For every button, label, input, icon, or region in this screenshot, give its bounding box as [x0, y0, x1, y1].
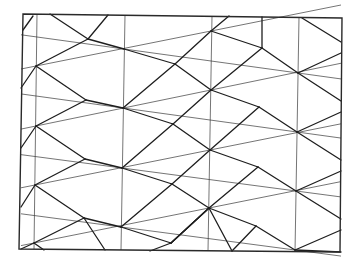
triangle-edge	[123, 64, 175, 108]
triangle-edge	[295, 230, 341, 250]
triangle-edge	[302, 18, 341, 42]
triangle-edge	[21, 126, 36, 148]
triangle-edge	[209, 208, 232, 251]
shallow-diagonal-line	[21, 124, 341, 188]
vertical-guide-line	[208, 16, 212, 251]
triangle-edge	[35, 185, 84, 218]
triangle-edge	[209, 167, 258, 208]
triangle-edge	[172, 184, 209, 208]
triangle-edge	[34, 218, 84, 243]
triangle-edge	[23, 16, 33, 30]
triangle-edge	[211, 48, 262, 90]
lattice-diagram	[0, 0, 358, 266]
vertical-guide-line	[295, 17, 299, 252]
triangle-edge	[121, 227, 171, 243]
triangle-edge	[36, 100, 86, 126]
triangle-edge	[210, 150, 258, 167]
vertical-guide-line	[121, 15, 125, 250]
triangle-edge	[50, 14, 88, 39]
triangle-edge	[296, 191, 341, 219]
triangle-edge	[88, 39, 124, 49]
triangle-edge	[209, 208, 256, 226]
triangle-edge	[210, 107, 259, 150]
triangle-edge	[123, 108, 173, 124]
triangle-edge	[262, 48, 298, 73]
thin-lines-layer	[21, 5, 341, 256]
triangle-edge	[173, 124, 210, 150]
triangle-edge	[211, 31, 262, 48]
triangle-edge	[36, 39, 88, 66]
triangle-edge	[21, 243, 34, 249]
triangle-edge	[175, 31, 211, 64]
triangle-edge	[122, 168, 172, 184]
triangle-edge	[211, 90, 259, 107]
triangle-edge	[211, 16, 229, 31]
triangle-edge	[296, 171, 341, 191]
shallow-diagonal-line	[21, 182, 341, 246]
vertical-guide-line	[34, 14, 37, 249]
triangle-edge	[175, 64, 211, 90]
triangle-edge	[258, 167, 296, 191]
triangle-edge	[35, 159, 85, 185]
triangle-edge	[298, 73, 341, 101]
shallow-diagonal-line	[21, 63, 341, 129]
triangle-edge	[298, 53, 341, 73]
triangle-edge	[88, 15, 108, 39]
diagram-canvas	[0, 0, 358, 266]
triangle-edge	[256, 226, 295, 250]
thick-edges-layer	[21, 14, 341, 252]
triangle-edge	[21, 185, 35, 207]
triangle-edge	[232, 226, 256, 251]
triangle-edge	[36, 66, 86, 100]
triangle-edge	[173, 90, 211, 124]
triangle-edge	[21, 66, 36, 88]
triangle-edge	[297, 132, 341, 160]
triangle-edge	[122, 124, 173, 168]
shallow-diagonal-line	[21, 35, 341, 79]
triangle-edge	[297, 112, 341, 132]
triangle-edge	[36, 126, 85, 159]
triangle-edge	[124, 49, 175, 64]
triangle-edge	[259, 107, 297, 132]
